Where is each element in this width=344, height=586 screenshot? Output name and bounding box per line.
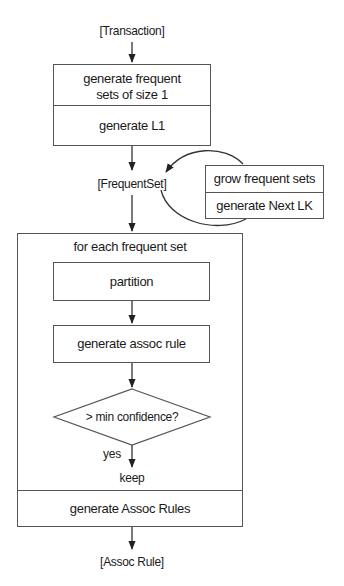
generate-rule-text: generate assoc rule	[54, 326, 209, 362]
init-box-bottom-text: generate L1	[54, 106, 210, 145]
input-transaction-label: [Transaction]	[86, 23, 178, 38]
partition-box: partition	[53, 262, 210, 301]
partition-text: partition	[54, 263, 209, 300]
init-box: generate frequent sets of size 1 generat…	[53, 64, 211, 146]
frequent-set-label: [FrequentSet]	[77, 176, 187, 191]
init-box-top-text: generate frequent sets of size 1	[54, 69, 210, 105]
loop-box-footer: generate Assoc Rules	[18, 491, 242, 526]
loop-box-header: for each frequent set	[18, 236, 242, 258]
decision-text: > min confidence?	[77, 409, 187, 424]
grow-box: grow frequent sets generate Next LK	[205, 165, 324, 219]
keep-label: keep	[114, 470, 151, 485]
output-assoc-rule-label: [Assoc Rule]	[86, 554, 178, 569]
yes-label: yes	[98, 446, 126, 461]
generate-rule-box: generate assoc rule	[53, 325, 210, 363]
grow-box-top-text: grow frequent sets	[206, 166, 323, 192]
grow-box-bottom-text: generate Next LK	[206, 193, 323, 219]
